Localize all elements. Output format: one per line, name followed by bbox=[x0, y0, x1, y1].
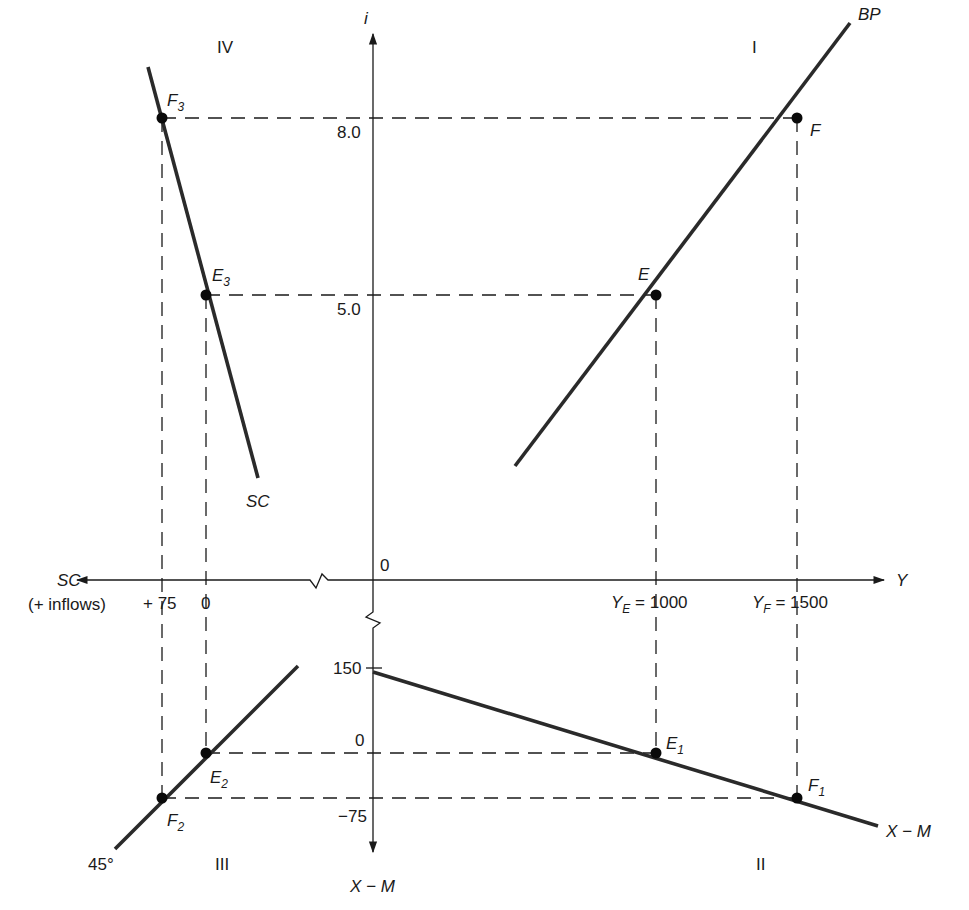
point-e3-label: E3 bbox=[212, 266, 230, 289]
sc-curve-label: SC bbox=[246, 492, 270, 511]
axis-label-i: i bbox=[364, 9, 369, 28]
point-e3 bbox=[201, 290, 212, 301]
origin-label: 0 bbox=[380, 556, 389, 575]
axis-sublabel-inflows: (+ inflows) bbox=[28, 595, 106, 614]
point-e2-label: E2 bbox=[210, 768, 228, 791]
point-e1-label: E1 bbox=[666, 734, 684, 757]
point-f2 bbox=[157, 793, 168, 804]
bp-curve-label: BP bbox=[858, 5, 881, 24]
point-f3-label: F3 bbox=[167, 91, 184, 114]
tick-label-i-8: 8.0 bbox=[337, 123, 361, 142]
point-e bbox=[651, 290, 662, 301]
xm-curve-label: X − M bbox=[885, 822, 932, 841]
xm-curve bbox=[373, 672, 878, 826]
tick-label-i-5: 5.0 bbox=[337, 300, 361, 319]
quadrant-label-ii: II bbox=[756, 855, 765, 874]
point-f2-label: F2 bbox=[167, 811, 184, 834]
point-e2 bbox=[201, 748, 212, 759]
axis-label-x-minus-m-bottom: X − M bbox=[349, 877, 396, 896]
quadrant-label-i: I bbox=[752, 38, 757, 57]
axis-label-y: Y bbox=[896, 571, 909, 590]
quadrant-label-iii: III bbox=[215, 855, 229, 874]
point-e-label: E bbox=[638, 265, 650, 284]
point-f1 bbox=[792, 793, 803, 804]
quadrant-label-iv: IV bbox=[217, 38, 234, 57]
tick-label-yf: YF = 1500 bbox=[752, 593, 828, 616]
four-quadrant-diagram: IV I III II i X − M Y SC (+ inflows) 0 B… bbox=[0, 0, 969, 910]
point-f3 bbox=[157, 113, 168, 124]
tick-label-xm-neg75: −75 bbox=[338, 807, 367, 826]
point-e1 bbox=[651, 748, 662, 759]
point-f1-label: F1 bbox=[808, 776, 825, 799]
tick-label-ye: YE = 1000 bbox=[611, 593, 688, 616]
45-degree-label: 45° bbox=[88, 855, 114, 874]
vertical-axis bbox=[366, 34, 380, 852]
point-f-label: F bbox=[810, 121, 822, 140]
tick-label-xm-150: 150 bbox=[333, 659, 361, 678]
horizontal-axis bbox=[77, 574, 884, 588]
point-f bbox=[792, 113, 803, 124]
tick-label-sc-75: + 75 bbox=[143, 594, 177, 613]
axis-label-sc: SC bbox=[57, 571, 81, 590]
bp-curve bbox=[515, 23, 850, 466]
tick-label-xm-0: 0 bbox=[355, 731, 364, 750]
tick-label-sc-0: 0 bbox=[201, 594, 210, 613]
sc-curve bbox=[148, 67, 258, 478]
